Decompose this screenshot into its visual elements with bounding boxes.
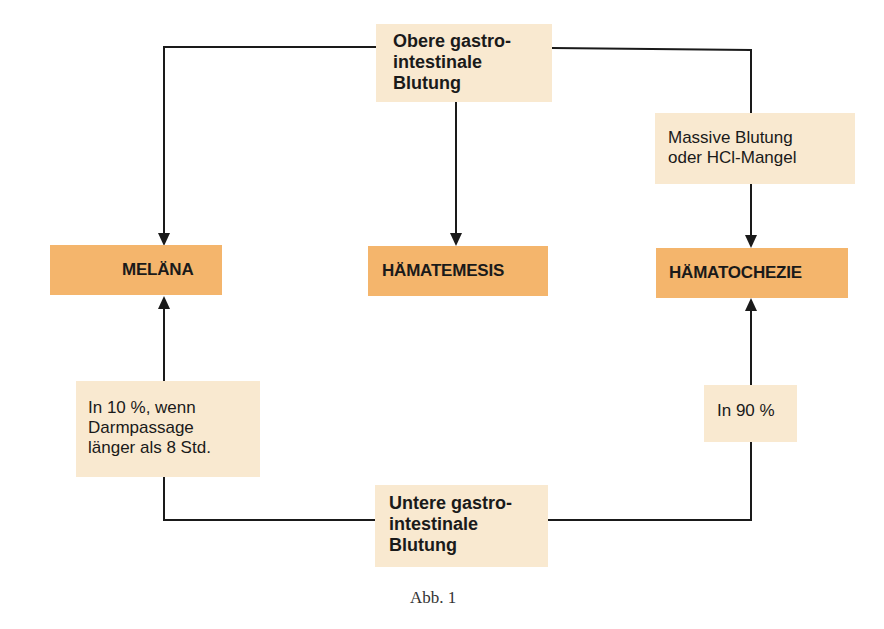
ten-percent-line2: Darmpassage <box>88 418 260 438</box>
upper-gi-line1: Obere gastro- <box>393 31 552 52</box>
melaena-label: MELÄNA <box>122 260 194 280</box>
haematochezia-box: HÄMATOCHEZIE <box>656 248 848 298</box>
lower-gi-line1: Untere gastro- <box>389 493 548 514</box>
arrow-up-icon <box>745 298 757 311</box>
figure-caption: Abb. 1 <box>410 588 456 608</box>
lower-gi-bleeding-box: Untere gastro- intestinale Blutung <box>375 485 548 567</box>
haematochezia-label: HÄMATOCHEZIE <box>669 263 802 283</box>
arrow-down-icon <box>450 233 462 246</box>
ninety-percent-condition-box: In 90 % <box>704 385 797 442</box>
upper-gi-line3: Blutung <box>393 73 552 94</box>
ten-percent-line3: länger als 8 Std. <box>88 438 260 458</box>
upper-gi-line2: intestinale <box>393 52 552 73</box>
melaena-box: MELÄNA <box>50 245 222 295</box>
ninety-percent-label: In 90 % <box>717 401 797 421</box>
arrow-up-icon <box>158 296 170 309</box>
massive-line1: Massive Blutung <box>668 128 855 148</box>
lower-gi-line2: intestinale <box>389 514 548 535</box>
ten-percent-line1: In 10 %, wenn <box>88 398 260 418</box>
lower-gi-line3: Blutung <box>389 535 548 556</box>
upper-gi-bleeding-box: Obere gastro- intestinale Blutung <box>376 24 552 102</box>
ten-percent-condition-box: In 10 %, wenn Darmpassage länger als 8 S… <box>76 381 260 477</box>
massive-bleeding-condition-box: Massive Blutung oder HCl-Mangel <box>655 113 855 184</box>
massive-line2: oder HCl-Mangel <box>668 148 855 168</box>
arrow-down-icon <box>745 235 757 248</box>
haematemesis-label: HÄMATEMESIS <box>382 261 504 281</box>
haematemesis-box: HÄMATEMESIS <box>368 246 548 296</box>
